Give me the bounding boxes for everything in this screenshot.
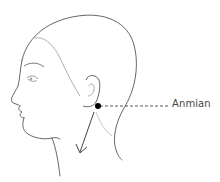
hairline (34, 38, 80, 96)
eyebrow (24, 63, 44, 67)
head-outline (11, 15, 136, 176)
ear (83, 76, 100, 107)
acupoint-marker (95, 103, 101, 109)
head-profile-diagram (0, 0, 220, 182)
acupoint-label: Anmian (172, 98, 211, 109)
neck-muscle-line (96, 112, 112, 136)
eye-icon (27, 76, 38, 82)
arrow-icon (76, 112, 94, 153)
